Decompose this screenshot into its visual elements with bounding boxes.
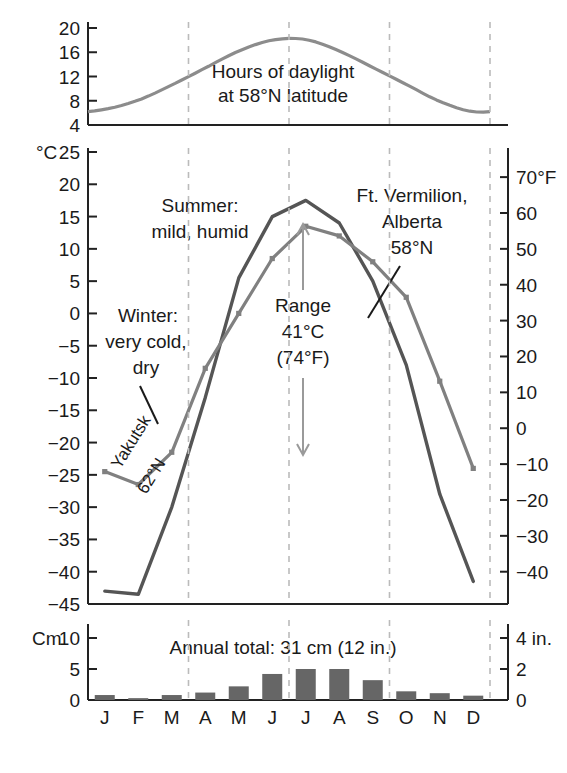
month-label-2: M xyxy=(164,707,180,728)
month-label-7: A xyxy=(333,707,346,728)
precip-bar xyxy=(128,698,148,700)
month-label-6: J xyxy=(301,707,311,728)
vermilion-temperature-line-marker xyxy=(270,256,275,261)
precip-bar xyxy=(430,693,450,700)
temp-left-tick-label: 15 xyxy=(59,207,80,228)
temp-right-tick-label: 20 xyxy=(516,346,537,367)
month-label-8: S xyxy=(366,707,379,728)
precip-left-tick-label: 10 xyxy=(59,628,80,649)
temp-left-tick-label: −40 xyxy=(48,562,80,583)
precip-bar xyxy=(363,680,383,700)
daylight-tick-label: 8 xyxy=(69,91,80,112)
daylight-tick-label: 4 xyxy=(69,115,80,136)
month-label-3: A xyxy=(199,707,212,728)
vermilion-annotation-line1: Ft. Vermilion, xyxy=(357,185,468,206)
temp-right-tick-label: 70°F xyxy=(516,167,556,188)
climate-chart-svg: 20161284Hours of daylightat 58°N latitud… xyxy=(0,0,567,773)
vermilion-temperature-line-marker xyxy=(471,466,476,471)
daylight-tick-label: 16 xyxy=(59,42,80,63)
precip-left-tick-label: 0 xyxy=(69,690,80,711)
temp-right-tick-label: 30 xyxy=(516,311,537,332)
temp-right-tick-label: −20 xyxy=(516,490,548,511)
temp-left-tick-label: 0 xyxy=(69,303,80,324)
vermilion-temperature-line-marker xyxy=(236,311,241,316)
daylight-tick-label: 20 xyxy=(59,18,80,39)
precip-bar xyxy=(229,686,249,700)
precip-bar xyxy=(463,696,483,700)
precip-annotation: Annual total: 31 cm (12 in.) xyxy=(169,637,396,658)
precip-bar xyxy=(95,695,115,700)
temp-right-tick-label: 0 xyxy=(516,418,527,439)
winter-annotation-line3: dry xyxy=(133,357,160,378)
vermilion-temperature-line-marker xyxy=(404,295,409,300)
climatograph-figure: 20161284Hours of daylightat 58°N latitud… xyxy=(0,0,567,773)
vermilion-temperature-line-marker xyxy=(370,259,375,264)
month-label-9: O xyxy=(399,707,414,728)
temp-right-tick-label: 50 xyxy=(516,239,537,260)
vermilion-temperature-line-marker xyxy=(203,366,208,371)
month-label-11: D xyxy=(466,707,480,728)
temp-left-tick-label: −45 xyxy=(48,594,80,615)
vermilion-temperature-line-marker xyxy=(102,469,107,474)
temp-left-tick-label: −15 xyxy=(48,400,80,421)
daylight-annotation-line2: at 58°N latitude xyxy=(218,85,348,106)
precip-right-tick-label: 4 in. xyxy=(516,628,552,649)
temp-left-axis-label: °C xyxy=(36,142,57,163)
temp-left-tick-label: 10 xyxy=(59,239,80,260)
temp-right-tick-label: 10 xyxy=(516,382,537,403)
winter-annotation-line1: Winter: xyxy=(118,305,178,326)
temp-left-tick-label: −10 xyxy=(48,368,80,389)
summer-annotation-line2: mild, humid xyxy=(151,221,248,242)
vermilion-temperature-line-marker xyxy=(437,379,442,384)
precip-right-tick-label: 0 xyxy=(516,690,527,711)
summer-annotation-line1: Summer: xyxy=(161,195,238,216)
temp-left-tick-label: −5 xyxy=(58,336,80,357)
temp-left-tick-label: −30 xyxy=(48,497,80,518)
precip-bar xyxy=(162,695,182,700)
temp-left-tick-label: −35 xyxy=(48,529,80,550)
daylight-annotation-line1: Hours of daylight xyxy=(212,61,355,82)
precip-bar xyxy=(396,691,416,700)
winter-annotation-line2: very cold, xyxy=(105,331,186,352)
temp-right-tick-label: −10 xyxy=(516,454,548,475)
range-annotation-line3: (74°F) xyxy=(277,347,330,368)
precip-left-tick-label: 5 xyxy=(69,659,80,680)
vermilion-temperature-line-marker xyxy=(169,450,174,455)
temp-right-tick-label: −30 xyxy=(516,526,548,547)
range-annotation-line1: Range xyxy=(275,295,331,316)
month-label-10: N xyxy=(433,707,447,728)
temp-right-tick-label: 40 xyxy=(516,275,537,296)
month-label-5: J xyxy=(268,707,278,728)
vermilion-annotation-line2: Alberta xyxy=(382,211,443,232)
precip-bar xyxy=(329,669,349,700)
precip-right-tick-label: 2 xyxy=(516,659,527,680)
month-label-0: J xyxy=(100,707,110,728)
temp-left-tick-label: 25 xyxy=(59,142,80,163)
precip-bar xyxy=(262,674,282,700)
precip-bar xyxy=(296,669,316,700)
temp-left-tick-label: 20 xyxy=(59,174,80,195)
vermilion-temperature-line-marker xyxy=(337,233,342,238)
range-annotation-line2: 41°C xyxy=(282,321,324,342)
temp-right-tick-label: −40 xyxy=(516,562,548,583)
precip-bar xyxy=(195,693,215,700)
temp-left-tick-label: 5 xyxy=(69,271,80,292)
month-label-1: F xyxy=(132,707,144,728)
temp-right-tick-label: 60 xyxy=(516,203,537,224)
daylight-tick-label: 12 xyxy=(59,67,80,88)
month-label-4: M xyxy=(231,707,247,728)
vermilion-annotation-line3: 58°N xyxy=(391,237,433,258)
precip-left-axis-label: Cm xyxy=(32,628,62,649)
temp-left-tick-label: −20 xyxy=(48,433,80,454)
temp-left-tick-label: −25 xyxy=(48,465,80,486)
